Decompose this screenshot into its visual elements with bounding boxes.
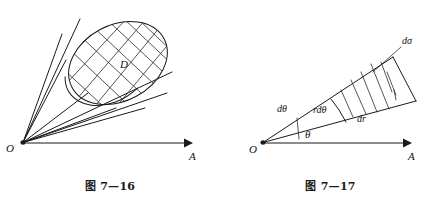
label-axis-left: A bbox=[188, 150, 196, 162]
label-axis-right: A bbox=[407, 150, 415, 162]
label-origin-right: O bbox=[249, 143, 257, 155]
figure-7-17-drawing: O A θ dθ rdθ dr dσ bbox=[220, 0, 441, 175]
dtheta-tick bbox=[297, 118, 299, 139]
arc-r-dtheta bbox=[331, 99, 346, 122]
label-r-dtheta: rdθ bbox=[313, 104, 327, 115]
axis-OA-right bbox=[262, 139, 412, 148]
label-origin-left: O bbox=[6, 142, 14, 154]
caption-figure-7-17: 图 7—17 bbox=[220, 177, 441, 193]
label-dtheta: dθ bbox=[277, 103, 287, 114]
figure-7-16-drawing: O A D bbox=[0, 0, 220, 175]
dsigma-leader-line bbox=[373, 47, 401, 72]
figure-sheet: O A D 图 7—16 bbox=[0, 0, 441, 199]
cone-rays bbox=[23, 19, 172, 143]
label-theta: θ bbox=[305, 128, 311, 140]
caption-figure-7-16: 图 7—16 bbox=[0, 177, 220, 193]
figure-7-17-panel: O A θ dθ rdθ dr dσ 图 7—17 bbox=[220, 0, 441, 199]
label-dsigma: dσ bbox=[402, 35, 413, 46]
label-dr: dr bbox=[357, 113, 366, 124]
axis-OA-left bbox=[22, 139, 193, 148]
label-region-D: D bbox=[119, 58, 128, 70]
figure-7-16-panel: O A D 图 7—16 bbox=[0, 0, 220, 199]
wedge-outer-edge bbox=[393, 57, 416, 101]
